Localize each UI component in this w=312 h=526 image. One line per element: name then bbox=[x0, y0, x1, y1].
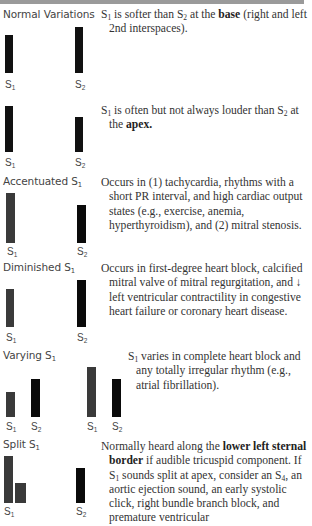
normal-apex-text: S1 is often but not always louder than S… bbox=[101, 104, 309, 133]
label-s2: S2 bbox=[77, 246, 87, 258]
bar-s2 bbox=[77, 280, 86, 327]
bar-s1 bbox=[6, 392, 15, 417]
bar-s1 bbox=[6, 289, 14, 327]
diminished-text: Occurs in first-degree heart block, calc… bbox=[101, 262, 312, 319]
section-heading-varying-s1: Varying S1 bbox=[3, 349, 56, 363]
bar-s2 bbox=[77, 205, 86, 243]
label-s2: S2 bbox=[77, 332, 87, 344]
label-s1: S1 bbox=[5, 79, 15, 91]
section-heading-normal-variations: Normal Variations bbox=[3, 8, 95, 20]
bar-s1-mitral bbox=[4, 456, 13, 503]
varying-text: S1 varies in complete heart block and an… bbox=[128, 350, 312, 393]
label-s1: S1 bbox=[87, 421, 97, 433]
label-s1: S1 bbox=[6, 332, 16, 344]
bar-s1 bbox=[5, 106, 13, 152]
label-s2: S2 bbox=[76, 506, 86, 518]
normal-base-text: S1 is softer than S2 at the base (right … bbox=[101, 8, 309, 37]
bar-s1-tricuspid bbox=[15, 483, 26, 503]
bar-s2 bbox=[75, 117, 83, 152]
bar-s1 bbox=[6, 193, 15, 243]
section-heading-split-s1: Split S1 bbox=[3, 438, 40, 452]
split-text: Normally heard along the lower left ster… bbox=[101, 440, 312, 526]
bar-s2 bbox=[112, 379, 121, 417]
label-s1: S1 bbox=[6, 421, 16, 433]
bar-s1 bbox=[5, 35, 13, 73]
label-s1: S1 bbox=[4, 506, 14, 518]
section-heading-diminished-s1: Diminished S1 bbox=[3, 261, 75, 275]
bar-s1 bbox=[87, 367, 96, 417]
label-s1: S1 bbox=[7, 246, 17, 258]
label-s2: S2 bbox=[75, 79, 85, 91]
label-s2: S2 bbox=[31, 421, 41, 433]
label-s1: S1 bbox=[5, 157, 15, 169]
section-heading-accentuated-s1: Accentuated S1 bbox=[3, 175, 82, 189]
accentuated-text: Occurs in (1) tachycardia, rhythms with … bbox=[101, 176, 312, 233]
label-s2: S2 bbox=[75, 157, 85, 169]
bar-s2 bbox=[75, 27, 83, 73]
top-rule bbox=[0, 0, 304, 4]
label-s2: S2 bbox=[112, 421, 122, 433]
bar-s2 bbox=[76, 468, 85, 503]
bar-s2 bbox=[31, 379, 40, 417]
